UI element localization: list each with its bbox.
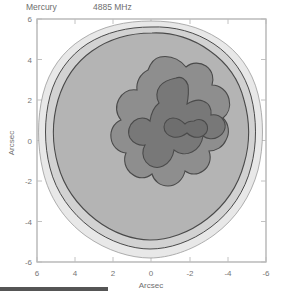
x-tick-label: 2 bbox=[111, 269, 116, 278]
x-tick-label: -2 bbox=[186, 269, 194, 278]
y-tick-label: -2 bbox=[25, 177, 33, 186]
y-axis-title: Arcsec bbox=[7, 131, 16, 155]
x-tick-label: 4 bbox=[73, 269, 78, 278]
y-tick-label: -4 bbox=[25, 218, 33, 227]
x-tick-label: 6 bbox=[35, 269, 40, 278]
y-tick-label: 2 bbox=[28, 96, 33, 105]
y-tick-label: 6 bbox=[28, 15, 33, 24]
y-tick-label: 0 bbox=[28, 137, 33, 146]
x-tick-label: -6 bbox=[262, 269, 270, 278]
x-axis-title: Arcsec bbox=[139, 281, 163, 290]
contour-bands bbox=[39, 21, 263, 258]
y-tick-label: 4 bbox=[28, 56, 33, 65]
x-tick-label: 0 bbox=[149, 269, 154, 278]
y-tick-label: -6 bbox=[25, 258, 33, 267]
figure-root: Mercury 4885 MHz bbox=[0, 0, 288, 299]
x-tick-label: -4 bbox=[224, 269, 232, 278]
contour-plot: 6 4 2 0 -2 -4 -6 6 4 2 0 -2 -4 -6 Arcsec… bbox=[0, 0, 288, 299]
scalebar bbox=[0, 287, 108, 291]
